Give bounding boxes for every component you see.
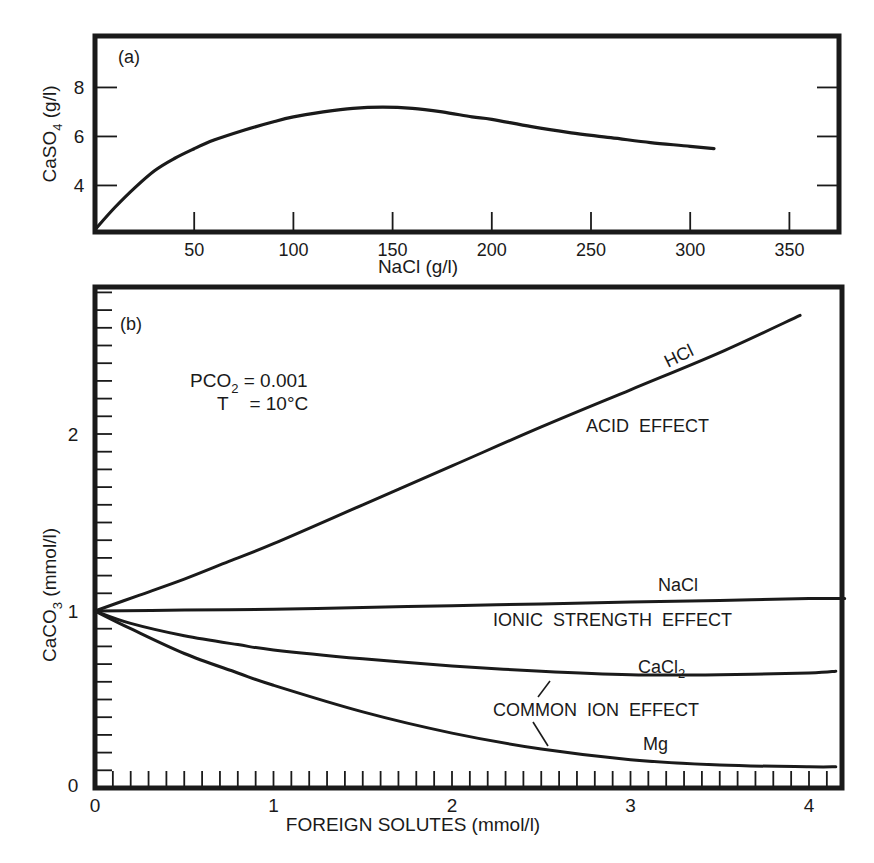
panel-a-x-ticks: 50100150200250300350 (184, 212, 804, 260)
y-tick-label: 8 (74, 77, 85, 98)
panel-b-frame (95, 287, 842, 788)
x-tick-label: 0 (90, 795, 101, 816)
x-tick-label: 1 (268, 795, 279, 816)
panel-b-x-ticks: 01234 (90, 771, 827, 816)
y-tick-label: 4 (74, 175, 85, 196)
panel-a-y-axis-title: CaSO4 (g/l) (39, 86, 65, 183)
hcl-curve-label: HCl (661, 340, 697, 371)
common-ion-effect-label: COMMON ION EFFECT (493, 700, 699, 720)
x-tick-label: 3 (625, 795, 636, 816)
x-tick-label: 2 (447, 795, 458, 816)
y-tick-label: 0 (68, 775, 79, 796)
curve-mg (95, 611, 836, 767)
acid-effect-label: ACID EFFECT (586, 416, 709, 436)
panel-b-y-axis-title: CaCO3 (mmol/l) (39, 528, 65, 662)
x-tick-label: 50 (184, 240, 204, 260)
panel-a-y-axis-main: CaSO (39, 131, 60, 183)
x-tick-label: 4 (804, 795, 815, 816)
x-tick-label: 250 (576, 240, 606, 260)
x-tick-label: 350 (774, 240, 804, 260)
cacl2-curve-label: CaCl2 (638, 657, 685, 681)
curve-nacl (95, 598, 845, 611)
y-tick-label: 2 (68, 424, 79, 445)
panel-b-y-axis-unit: (mmol/l) (39, 528, 60, 602)
nacl-curve-label: NaCl (658, 575, 698, 595)
y-tick-label: 6 (74, 126, 85, 147)
common-ion-pointer-lower (533, 722, 548, 746)
cacl2-main: CaCl (638, 657, 678, 677)
conditions-temperature: T = 10°C (217, 393, 308, 414)
x-tick-label: 200 (477, 240, 507, 260)
mg-curve-label: Mg (643, 734, 668, 754)
figure: 468 50100150200250300350 (a) NaCl (g/l) … (0, 0, 874, 863)
panel-a: 468 50100150200250300350 (a) NaCl (g/l) … (39, 36, 839, 277)
cacl2-sub: 2 (678, 666, 685, 681)
ionic-strength-effect-label: IONIC STRENGTH EFFECT (493, 610, 732, 630)
panel-a-x-axis-title: NaCl (g/l) (378, 256, 458, 277)
panel-b-y-ticks: 012 (68, 292, 112, 796)
panel-b-y-axis-main: CaCO (39, 609, 60, 662)
y-tick-label: 1 (68, 601, 79, 622)
pco2-value: = 0.001 (238, 370, 307, 391)
x-tick-label: 300 (675, 240, 705, 260)
panel-a-y-axis-sub: 4 (50, 124, 65, 131)
curve-hcl (95, 315, 800, 611)
pco2-main: PCO (190, 370, 231, 391)
panel-b: 012 01234 (b) PCO2 = 0.001 T = 10°C HCl … (39, 287, 845, 835)
panel-a-y-ticks: 468 (74, 77, 839, 196)
panel-b-x-axis-title: FOREIGN SOLUTES (mmol/l) (286, 814, 540, 835)
panel-a-caso4-curve (95, 107, 714, 230)
panel-b-y-axis-sub: 3 (50, 602, 65, 609)
panel-a-label: (a) (118, 47, 140, 67)
common-ion-pointer-upper (538, 681, 550, 697)
panel-a-y-axis-unit: (g/l) (39, 86, 60, 124)
x-tick-label: 100 (278, 240, 308, 260)
panel-a-frame (95, 36, 839, 232)
panel-b-label: (b) (120, 314, 142, 334)
